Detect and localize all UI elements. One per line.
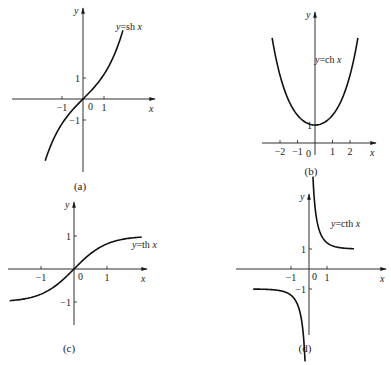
y-tick-label: −1 <box>295 284 306 295</box>
y-axis-label: y <box>305 9 311 20</box>
panel-d-coth: xy−111−10y=cth x(d) <box>236 177 386 362</box>
panel-c-tanh: xy−111−10y=th x(c) <box>8 199 157 355</box>
x-tick-label: 2 <box>348 146 353 157</box>
x-axis-label: x <box>369 147 375 158</box>
y-axis-label: y <box>64 199 70 210</box>
y-tick-label: −1 <box>69 115 80 126</box>
panel-caption: (b) <box>305 165 318 178</box>
curve-label: y=th x <box>131 239 157 250</box>
x-tick-label: 1 <box>105 272 110 283</box>
origin-label: 0 <box>312 271 317 282</box>
curve-label: y=ch x <box>314 54 342 65</box>
origin-label: 0 <box>306 148 311 159</box>
x-axis-label: x <box>379 273 385 284</box>
x-axis-label: x <box>140 273 146 284</box>
panel-b-cosh: xy−2−11210y=ch x(b) <box>262 9 376 178</box>
hyperbolic-function-figure: xy−111−10y=sh x(a) xy−2−11210y=ch x(b) x… <box>0 0 391 365</box>
x-tick-label: 1 <box>330 146 335 157</box>
x-tick-label: 1 <box>102 102 107 113</box>
y-axis-label: y <box>299 191 305 202</box>
y-tick-label: 1 <box>301 244 306 255</box>
origin-label: 0 <box>78 271 83 282</box>
x-tick-label: −1 <box>36 272 47 283</box>
x-tick-label: −1 <box>57 102 68 113</box>
panel-caption: (a) <box>74 180 87 193</box>
function-curve <box>45 30 123 160</box>
origin-label: 0 <box>88 101 93 112</box>
curve-label: y=cth x <box>330 218 361 229</box>
x-tick-label: −1 <box>292 146 303 157</box>
panel-caption: (d) <box>299 342 312 355</box>
x-tick-label: −2 <box>275 146 286 157</box>
y-tick-label: −1 <box>60 297 71 308</box>
function-curve <box>253 289 305 361</box>
y-tick-label: 1 <box>75 73 80 84</box>
function-curve <box>313 177 354 249</box>
panel-a-sinh: xy−111−10y=sh x(a) <box>12 5 155 193</box>
panel-caption: (c) <box>63 342 76 355</box>
x-axis-label: x <box>148 103 154 114</box>
y-tick-label: 1 <box>307 120 312 131</box>
y-axis-label: y <box>73 5 79 16</box>
x-tick-label: 1 <box>325 272 330 283</box>
y-tick-label: 1 <box>66 231 71 242</box>
curve-label: y=sh x <box>115 21 142 32</box>
x-tick-label: −1 <box>286 272 297 283</box>
